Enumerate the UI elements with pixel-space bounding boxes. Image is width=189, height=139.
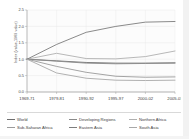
legend-swatch-south-asia xyxy=(129,127,137,128)
legend-label-sub-saharan-africa: Sub-Saharan Africa xyxy=(17,125,53,130)
legend-item-developing-regions[interactable]: Developing Regions xyxy=(69,117,129,122)
chart-panel: Index (value,1969 value) 0.00.51.01.52.0… xyxy=(5,4,181,135)
svg-text:1990-92: 1990-92 xyxy=(79,96,95,101)
page-margin-right xyxy=(183,0,189,139)
page-margin-bottom xyxy=(0,136,189,139)
legend-swatch-northern-africa xyxy=(129,119,137,120)
legend-swatch-developing-regions xyxy=(69,119,77,120)
legend-item-sub-saharan-africa[interactable]: Sub-Saharan Africa xyxy=(7,125,69,130)
svg-text:1995-97: 1995-97 xyxy=(108,96,124,101)
figure-container: Index (value,1969 value) 0.00.51.01.52.0… xyxy=(0,0,189,139)
legend-label-south-asia: South Asia xyxy=(139,125,159,130)
legend-label-northern-africa: Northern Africa xyxy=(139,117,166,122)
svg-text:1979-81: 1979-81 xyxy=(49,96,65,101)
legend-label-eastern-asia: Eastern Asia xyxy=(79,125,102,130)
legend-item-northern-africa[interactable]: Northern Africa xyxy=(129,117,179,122)
svg-text:0.5: 0.5 xyxy=(18,73,24,78)
svg-text:2005-07: 2005-07 xyxy=(167,96,181,101)
legend-swatch-sub-saharan-africa xyxy=(7,127,15,128)
legend-item-south-asia[interactable]: South Asia xyxy=(129,125,179,130)
svg-text:1.0: 1.0 xyxy=(18,57,24,62)
legend-swatch-world xyxy=(7,119,15,120)
legend-item-world[interactable]: World xyxy=(7,117,69,122)
legend-label-world: World xyxy=(17,117,28,122)
legend-item-eastern-asia[interactable]: Eastern Asia xyxy=(69,125,129,130)
line-chart: 0.00.51.01.52.02.51969-711979-811990-921… xyxy=(5,4,181,108)
legend-row-2: Sub-Saharan Africa Eastern Asia South As… xyxy=(7,123,181,131)
svg-text:2.5: 2.5 xyxy=(18,7,24,12)
chart-legend: World Developing Regions Northern Africa… xyxy=(7,112,181,134)
legend-label-developing-regions: Developing Regions xyxy=(79,117,116,122)
svg-text:0.0: 0.0 xyxy=(18,89,24,94)
plot-area: Index (value,1969 value) 0.00.51.01.52.0… xyxy=(5,4,181,108)
y-axis-label: Index (value,1969 value) xyxy=(14,12,18,72)
svg-text:2000-02: 2000-02 xyxy=(138,96,154,101)
legend-row-1: World Developing Regions Northern Africa xyxy=(7,115,181,123)
legend-swatch-eastern-asia xyxy=(69,127,77,128)
svg-text:2.0: 2.0 xyxy=(18,24,24,29)
svg-text:1.5: 1.5 xyxy=(18,40,24,45)
svg-text:1969-71: 1969-71 xyxy=(19,96,35,101)
